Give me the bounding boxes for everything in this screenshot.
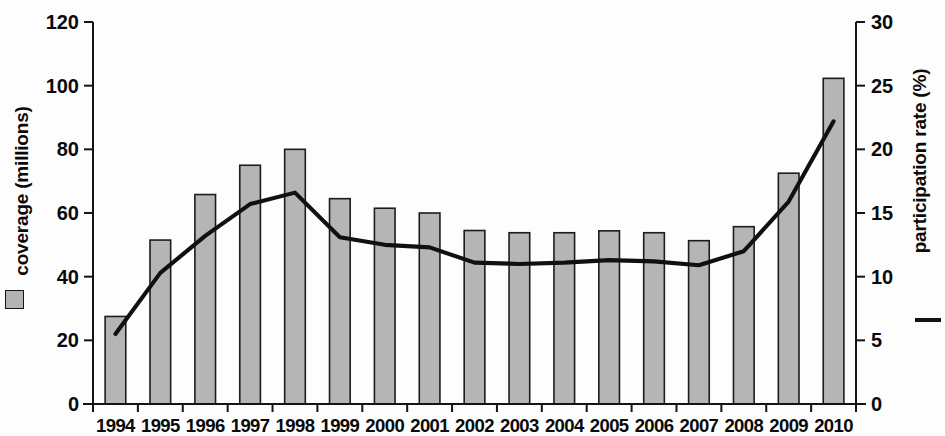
right-tick-label-15: 15 — [871, 202, 893, 224]
x-tick-label-1998: 1998 — [276, 415, 315, 436]
bar-2000 — [374, 208, 395, 404]
left-tick-label-40: 40 — [57, 266, 79, 288]
left-tick-label-20: 20 — [57, 329, 79, 351]
x-tick-label-2006: 2006 — [635, 415, 674, 436]
bar-1994 — [105, 316, 126, 404]
plot-area: 1201008060402003025201510501994199519961… — [0, 0, 945, 436]
x-tick-label-2009: 2009 — [769, 415, 808, 436]
x-tick-label-2003: 2003 — [500, 415, 539, 436]
x-tick-label-1996: 1996 — [186, 415, 225, 436]
x-tick-label-2001: 2001 — [410, 415, 449, 436]
bar-2001 — [419, 213, 440, 404]
left-tick-label-120: 120 — [46, 11, 79, 33]
right-tick-label-0: 0 — [871, 393, 882, 415]
x-tick-label-2008: 2008 — [724, 415, 763, 436]
chart-container: coverage (millions) participation rate (… — [0, 0, 945, 436]
x-tick-label-1997: 1997 — [231, 415, 270, 436]
x-tick-label-1994: 1994 — [96, 415, 136, 436]
bar-1996 — [195, 195, 216, 404]
x-tick-label-2004: 2004 — [545, 415, 585, 436]
bar-2003 — [509, 233, 530, 404]
right-tick-label-5: 5 — [871, 329, 882, 351]
x-tick-label-2002: 2002 — [455, 415, 494, 436]
left-tick-label-0: 0 — [68, 393, 79, 415]
left-tick-label-80: 80 — [57, 138, 79, 160]
left-tick-label-100: 100 — [46, 75, 79, 97]
x-tick-label-1999: 1999 — [320, 415, 359, 436]
bar-2005 — [599, 231, 620, 404]
bar-2006 — [644, 233, 665, 404]
x-tick-label-1995: 1995 — [141, 415, 180, 436]
bar-2010 — [823, 78, 844, 404]
bar-2004 — [554, 233, 575, 404]
right-tick-label-30: 30 — [871, 11, 893, 33]
bar-2002 — [464, 231, 485, 404]
bar-1998 — [285, 149, 306, 404]
x-tick-label-2005: 2005 — [590, 415, 629, 436]
right-tick-label-10: 10 — [871, 266, 893, 288]
bars-group — [105, 78, 844, 404]
x-tick-label-2000: 2000 — [365, 415, 404, 436]
right-tick-label-20: 20 — [871, 138, 893, 160]
x-tick-label-2007: 2007 — [680, 415, 719, 436]
right-tick-label-25: 25 — [871, 75, 893, 97]
left-tick-label-60: 60 — [57, 202, 79, 224]
x-tick-label-2010: 2010 — [814, 415, 853, 436]
